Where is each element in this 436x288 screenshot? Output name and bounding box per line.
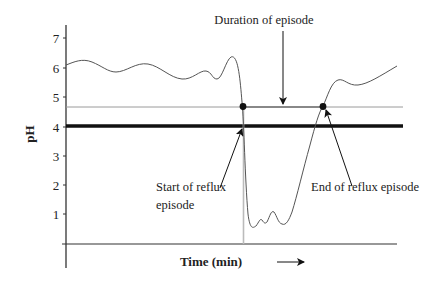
- y-tick-label-4: 4: [53, 120, 60, 135]
- start-of-reflux-label-line2: episode: [156, 198, 195, 212]
- y-tick-label-6: 6: [53, 61, 60, 76]
- y-tick-label-7: 7: [53, 31, 60, 46]
- y-tick-label-2: 2: [53, 178, 60, 193]
- y-tick-label-5: 5: [53, 90, 60, 105]
- y-axis: 7 6 5 4 3 2 1 pH: [22, 25, 66, 268]
- ph-monitoring-diagram: 7 6 5 4 3 2 1 pH Duration of episode Sta…: [0, 0, 436, 288]
- x-axis-title: Time (min): [180, 254, 242, 269]
- y-axis-title: pH: [22, 125, 37, 142]
- duration-of-episode-label: Duration of episode: [214, 13, 314, 27]
- y-tick-label-3: 3: [53, 149, 60, 164]
- episode-end-marker: [320, 103, 327, 110]
- episode-start-marker: [240, 103, 247, 110]
- end-of-reflux-label: End of reflux episode: [311, 180, 419, 194]
- start-of-reflux-label-line1: Start of reflux: [156, 180, 227, 194]
- y-tick-label-1: 1: [53, 207, 60, 222]
- end-of-reflux-arrow: [326, 110, 352, 186]
- ph-curve: [66, 57, 397, 228]
